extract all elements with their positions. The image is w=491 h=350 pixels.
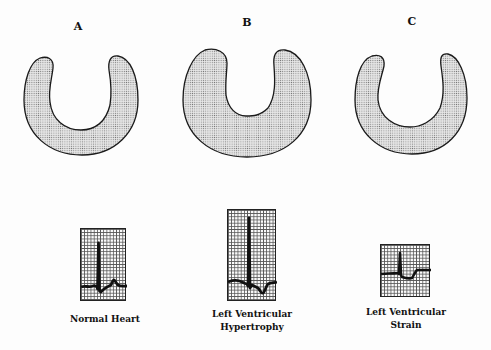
caption-line: Left Ventricular xyxy=(196,308,308,321)
caption-lv-hypertrophy: Left Ventricular Hypertrophy xyxy=(196,308,308,334)
caption-normal-heart: Normal Heart xyxy=(50,313,160,326)
ecg-trace-hypertrophy xyxy=(228,218,277,293)
caption-lv-strain: Left Ventricular Strain xyxy=(350,306,462,332)
caption-line: Hypertrophy xyxy=(196,321,308,334)
caption-line: Normal Heart xyxy=(70,314,140,324)
ventricle-diagrams xyxy=(0,0,491,180)
caption-line: Strain xyxy=(350,319,462,332)
ecg-strip-normal xyxy=(80,228,126,301)
ecg-trace-normal xyxy=(81,243,127,292)
ecg-trace-strain xyxy=(381,253,431,278)
ventricle-b-hypertrophy xyxy=(183,49,311,157)
ecg-strip-strain xyxy=(380,244,430,297)
ventricle-a-normal xyxy=(24,56,138,155)
caption-line: Left Ventricular xyxy=(350,306,462,319)
ecg-strip-hypertrophy xyxy=(227,209,276,301)
ventricle-c-strain xyxy=(355,54,467,154)
